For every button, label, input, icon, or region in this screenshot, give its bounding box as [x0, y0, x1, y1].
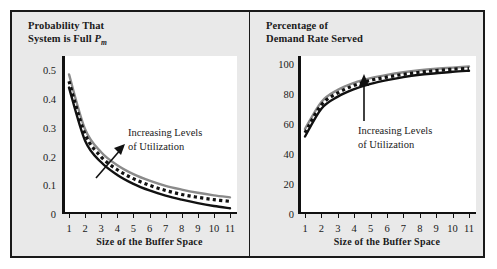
x-tick-mark — [321, 214, 322, 218]
left-chart-title: Probability That System is Full Pm — [28, 19, 107, 49]
right-annotation-text: Increasing Levels of Utilization — [358, 124, 432, 151]
x-tick-mark — [453, 214, 454, 218]
y-tick-label: 60 — [284, 118, 295, 129]
y-tick-label: 0 — [51, 209, 56, 220]
x-tick-mark — [354, 214, 355, 218]
x-tick-mark — [198, 214, 199, 218]
left-x-axis-label: Size of the Buffer Space — [62, 236, 237, 247]
chart-panel-right: Percentage of Demand Rate Served 0204060… — [250, 12, 486, 256]
x-tick-mark — [387, 214, 388, 218]
x-tick-mark — [85, 214, 86, 218]
left-annotation-line2: of Utilization — [128, 140, 202, 154]
x-tick-label: 4 — [352, 223, 357, 234]
x-tick-label: 2 — [82, 223, 87, 234]
y-tick-label: 40 — [284, 148, 295, 159]
x-tick-label: 6 — [384, 223, 389, 234]
x-tick-label: 10 — [447, 223, 458, 234]
y-tick-label: 80 — [284, 88, 295, 99]
y-tick-label: 20 — [284, 178, 295, 189]
x-tick-mark — [469, 214, 470, 218]
x-tick-mark — [338, 214, 339, 218]
left-annotation-line1: Increasing Levels — [128, 126, 202, 140]
x-tick-mark — [117, 214, 118, 218]
x-tick-mark — [150, 214, 151, 218]
x-tick-mark — [403, 214, 404, 218]
x-tick-mark — [182, 214, 183, 218]
left-x-tick-labels: 1234567891011 — [62, 214, 237, 236]
right-y-tick-labels: 020406080100 — [254, 56, 298, 214]
x-tick-label: 3 — [99, 223, 104, 234]
x-tick-label: 9 — [195, 223, 200, 234]
y-tick-label: 0.1 — [43, 180, 56, 191]
x-tick-label: 7 — [163, 223, 168, 234]
x-tick-label: 5 — [131, 223, 136, 234]
right-x-axis-label: Size of the Buffer Space — [298, 236, 476, 247]
y-tick-label: 0.4 — [43, 94, 56, 105]
x-tick-label: 1 — [302, 223, 307, 234]
x-tick-label: 11 — [225, 223, 235, 234]
x-tick-mark — [214, 214, 215, 218]
right-annotation-line1: Increasing Levels — [358, 124, 432, 138]
chart-panel-left: Probability That System is Full Pm 00.10… — [12, 12, 249, 256]
x-tick-mark — [69, 214, 70, 218]
x-tick-mark — [230, 214, 231, 218]
right-annotation-line2: of Utilization — [358, 138, 432, 152]
left-chart-title-line1: Probability That — [28, 20, 104, 31]
x-tick-label: 8 — [179, 223, 184, 234]
y-tick-label: 0 — [289, 209, 294, 220]
right-chart-title-line1: Percentage of — [266, 20, 328, 31]
x-tick-label: 3 — [335, 223, 340, 234]
x-tick-mark — [305, 214, 306, 218]
right-x-tick-labels: 1234567891011 — [298, 214, 476, 236]
y-tick-label: 0.2 — [43, 151, 56, 162]
left-annotation-text: Increasing Levels of Utilization — [128, 126, 202, 153]
x-tick-label: 11 — [464, 223, 474, 234]
x-tick-label: 5 — [368, 223, 373, 234]
x-tick-label: 10 — [209, 223, 220, 234]
x-tick-mark — [133, 214, 134, 218]
x-tick-mark — [371, 214, 372, 218]
right-chart-title-line2: Demand Rate Served — [266, 33, 363, 44]
y-tick-label: 0.3 — [43, 122, 56, 133]
x-tick-mark — [420, 214, 421, 218]
x-tick-label: 6 — [147, 223, 152, 234]
x-tick-mark — [166, 214, 167, 218]
left-chart-title-line2: System is Full Pm — [28, 33, 107, 44]
x-tick-mark — [436, 214, 437, 218]
x-tick-label: 8 — [417, 223, 422, 234]
x-tick-mark — [101, 214, 102, 218]
x-tick-label: 9 — [434, 223, 439, 234]
y-tick-label: 100 — [278, 58, 294, 69]
x-tick-label: 7 — [401, 223, 406, 234]
x-tick-label: 1 — [66, 223, 71, 234]
right-chart-title: Percentage of Demand Rate Served — [266, 19, 363, 45]
figure-panel-container: Probability That System is Full Pm 00.10… — [10, 10, 485, 258]
y-tick-label: 0.5 — [43, 65, 56, 76]
x-tick-label: 2 — [319, 223, 324, 234]
x-tick-label: 4 — [115, 223, 120, 234]
left-y-tick-labels: 00.10.20.30.40.5 — [16, 56, 60, 214]
